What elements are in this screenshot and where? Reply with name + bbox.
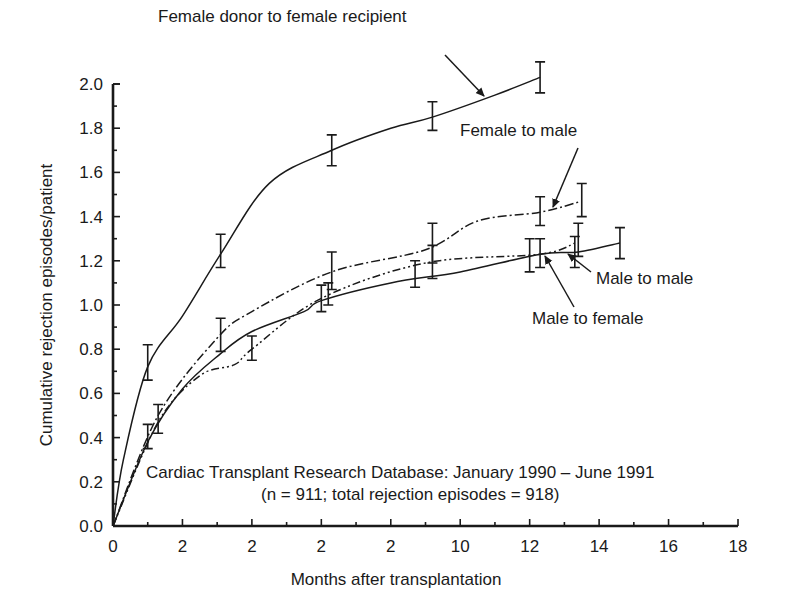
x-tick-label: 12 xyxy=(520,537,539,556)
series-line-male-to-female xyxy=(113,243,575,526)
error-bars-layer xyxy=(143,62,625,449)
y-tick-label: 1.2 xyxy=(79,252,103,271)
error-bar-male-to-female xyxy=(247,336,257,360)
arrow-icon xyxy=(553,148,578,207)
y-tick-label: 0.2 xyxy=(79,473,103,492)
series-line-female-donor-to-female-recipient xyxy=(113,77,540,526)
y-tick-label: 1.8 xyxy=(79,119,103,138)
rejection-episodes-chart: Cumulative rejection episodes/patient Mo… xyxy=(0,0,790,614)
arrow-icon xyxy=(445,55,484,96)
x-axis-title: Months after transplantation xyxy=(291,570,502,589)
x-tick-label: 16 xyxy=(659,537,678,556)
y-tick-label: 1.4 xyxy=(79,208,103,227)
x-tick-label: 2 xyxy=(178,537,187,556)
x-tick-label: 10 xyxy=(451,537,470,556)
annotation-line-1: Cardiac Transplant Research Database: Ja… xyxy=(146,463,654,482)
error-bar-female-to-male xyxy=(577,183,587,216)
series-line-male-to-male xyxy=(113,243,620,526)
arrow-icon xyxy=(545,256,574,307)
series-label-male-to-female: Male to female xyxy=(532,309,644,328)
series-layer xyxy=(113,77,620,526)
database-annotation: Cardiac Transplant Research Database: Ja… xyxy=(146,463,654,504)
error-bar-female-donor-to-female-recipient xyxy=(327,135,337,166)
y-tick-label: 2.0 xyxy=(79,75,103,94)
series-label-female-to-male: Female to male xyxy=(460,121,577,140)
series-label-male-to-male: Male to male xyxy=(596,269,693,288)
x-tick-label: 2 xyxy=(247,537,256,556)
x-tick-label: 2 xyxy=(317,537,326,556)
y-tick-label: 1.0 xyxy=(79,296,103,315)
y-tick-label: 0.6 xyxy=(79,384,103,403)
y-axis-title-group: Cumulative rejection episodes/patient xyxy=(37,163,56,446)
x-tick-label: 2 xyxy=(386,537,395,556)
x-tick-label: 0 xyxy=(108,537,117,556)
axes: 0.00.20.40.60.81.01.21.41.61.82.0 022221… xyxy=(79,75,747,556)
x-ticks: 022221012141618 xyxy=(108,519,747,556)
x-tick-label: 18 xyxy=(729,537,748,556)
series-label-female-donor-to-female-recipient: Female donor to female recipient xyxy=(158,7,407,26)
y-tick-label: 1.6 xyxy=(79,163,103,182)
y-tick-label: 0.0 xyxy=(79,517,103,536)
y-tick-label: 0.8 xyxy=(79,340,103,359)
x-tick-label: 14 xyxy=(590,537,609,556)
y-axis-title: Cumulative rejection episodes/patient xyxy=(37,163,56,446)
error-bar-female-donor-to-female-recipient xyxy=(535,62,545,93)
error-bar-male-to-male xyxy=(615,228,625,259)
error-bar-male-to-male xyxy=(316,285,326,312)
error-bar-female-to-male xyxy=(216,318,226,351)
annotation-line-2: (n = 911; total rejection episodes = 918… xyxy=(261,485,559,504)
series-labels-layer: Female donor to female recipientFemale t… xyxy=(158,7,693,328)
error-bar-female-donor-to-female-recipient xyxy=(216,234,226,267)
y-tick-label: 0.4 xyxy=(79,429,103,448)
